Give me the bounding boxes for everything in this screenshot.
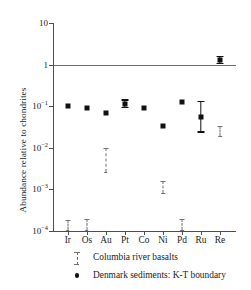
range-bar-pd <box>181 219 182 230</box>
chart-legend: Columbia river basalts Denmark sediments… <box>60 250 250 286</box>
y-tick-label: 10−3 <box>32 185 48 194</box>
y-tick-label: 1 <box>44 60 49 69</box>
data-point-ni <box>160 124 165 129</box>
range-cap-bottom-re <box>217 63 224 64</box>
range-bar-ni <box>162 181 163 193</box>
x-tick-label-pt: Pt <box>121 235 129 245</box>
y-axis-line <box>53 23 54 231</box>
legend-label: Columbia river basalts <box>93 252 178 262</box>
y-tick-label: 10−2 <box>32 143 48 152</box>
range-cap-bottom-au <box>104 172 108 173</box>
range-cap-top-pd <box>179 219 184 220</box>
data-point-pd <box>179 100 184 105</box>
legend-item-columbia-river-basalts: Columbia river basalts <box>60 250 250 268</box>
range-cap-top-ni <box>160 181 165 182</box>
x-tick-label-pd: Pd <box>177 235 187 245</box>
legend-label: Denmark sediments: K-T boundary <box>93 270 226 280</box>
x-tick-label-ru: Ru <box>196 235 207 245</box>
filled-dot-icon <box>70 268 84 285</box>
x-tick-label-ni: Ni <box>158 235 167 245</box>
y-tick-mark <box>49 231 54 232</box>
range-bar-os <box>86 219 87 230</box>
x-tick-label-re: Re <box>215 235 225 245</box>
range-cap-bottom-ir <box>66 230 70 231</box>
range-cap-bottom-os <box>85 230 89 231</box>
range-cap-bottom-pt <box>121 107 128 108</box>
range-cap-bottom-re <box>218 136 222 137</box>
range-bar-ir <box>67 220 68 230</box>
y-tick-mark <box>49 65 54 66</box>
range-cap-top-ru <box>197 101 204 102</box>
y-tick-label: 10−1 <box>32 102 48 111</box>
range-cap-top-au <box>103 148 108 149</box>
y-tick-mark <box>49 23 54 24</box>
y-axis-title: Abundance relative to chondrites <box>18 65 28 235</box>
range-cap-bottom-pd <box>180 230 184 231</box>
chart-figure: Abundance relative to chondrites 10110−1… <box>0 0 251 290</box>
y-tick-mark <box>49 189 54 190</box>
range-cap-bottom-ni <box>161 193 165 194</box>
y-tick-label: 10−4 <box>32 227 48 236</box>
data-point-au <box>103 110 108 115</box>
data-point-re <box>218 57 223 62</box>
range-cap-top-ir <box>65 220 70 221</box>
range-cap-bottom-ru <box>197 131 204 132</box>
x-tick-label-co: Co <box>138 235 149 245</box>
chondritic-reference-line <box>53 65 236 66</box>
x-tick-label-ir: Ir <box>65 235 71 245</box>
range-dashed-icon <box>70 250 84 267</box>
data-point-ir <box>65 104 70 109</box>
range-bar-re <box>220 126 221 137</box>
data-point-os <box>84 105 89 110</box>
y-tick-mark <box>49 148 54 149</box>
range-cap-top-re <box>218 126 223 127</box>
plot-area: 10110−110−210−310−4 IrOsAuPtCoNiPdRuRe <box>53 23 236 231</box>
legend-item-denmark-sediments: Denmark sediments: K-T boundary <box>60 268 250 286</box>
data-point-pt <box>122 101 127 106</box>
y-tick-label: 10 <box>39 19 48 28</box>
range-cap-top-os <box>84 219 89 220</box>
y-tick-mark <box>49 106 54 107</box>
x-tick-label-au: Au <box>100 235 111 245</box>
data-point-ru <box>198 114 203 119</box>
range-bar-au <box>105 148 106 172</box>
x-tick-label-os: Os <box>82 235 92 245</box>
data-point-co <box>141 105 146 110</box>
